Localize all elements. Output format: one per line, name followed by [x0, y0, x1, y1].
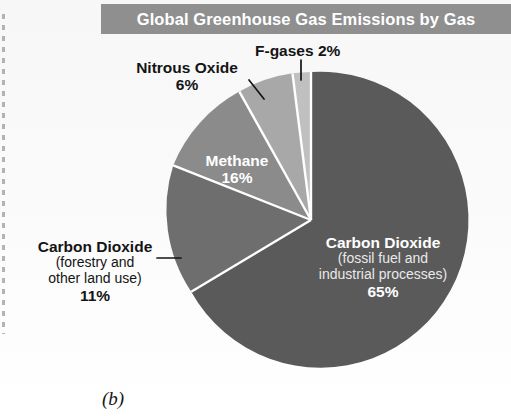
- slice-label-methane: Methane 16%: [189, 152, 285, 187]
- slice-label-co2-fossil: Carbon Dioxide (fossil fuel and industri…: [291, 234, 475, 300]
- slice-label-nitrous-oxide: Nitrous Oxide 6%: [113, 59, 261, 94]
- figure-panel: Global Greenhouse Gas Emissions by Gas: [0, 0, 511, 416]
- figure-caption: (b): [102, 388, 124, 410]
- slice-label-co2-land: Carbon Dioxide (forestry and other land …: [10, 238, 180, 304]
- slice-label-fgases: F-gases 2%: [255, 42, 340, 59]
